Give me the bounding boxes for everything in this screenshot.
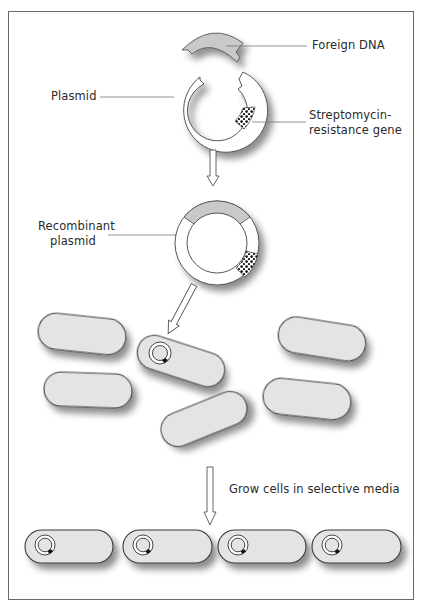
label-plasmid: Plasmid xyxy=(51,89,97,104)
arrow-down-2 xyxy=(204,467,216,525)
cell-3 xyxy=(276,314,369,363)
label-foreign-dna: Foreign DNA xyxy=(312,38,385,53)
label-resistance-gene-line2: resistance gene xyxy=(309,123,389,138)
plasmid-in-cell xyxy=(149,342,171,364)
cell-1 xyxy=(36,311,127,356)
cell-2-with-plasmid xyxy=(133,331,229,391)
label-recombinant-line1: Recombinant xyxy=(38,219,108,234)
bacterial-cells-selected xyxy=(25,530,401,563)
foreign-dna-fragment xyxy=(182,33,243,62)
cell-4 xyxy=(43,371,132,408)
cell-6 xyxy=(261,376,352,421)
label-resistance-gene: Streptomycin- resistance gene xyxy=(309,108,389,138)
cell-5 xyxy=(156,386,252,451)
label-grow-step: Grow cells in selective media xyxy=(229,482,400,497)
bacterial-cells-initial xyxy=(36,311,368,451)
label-recombinant-plasmid: Recombinant plasmid xyxy=(38,219,108,249)
cut-plasmid xyxy=(184,72,268,152)
label-resistance-gene-line1: Streptomycin- xyxy=(309,108,389,123)
label-recombinant-line2: plasmid xyxy=(38,234,108,249)
arrow-down-1 xyxy=(207,150,219,186)
arrow-diagonal xyxy=(163,282,199,336)
